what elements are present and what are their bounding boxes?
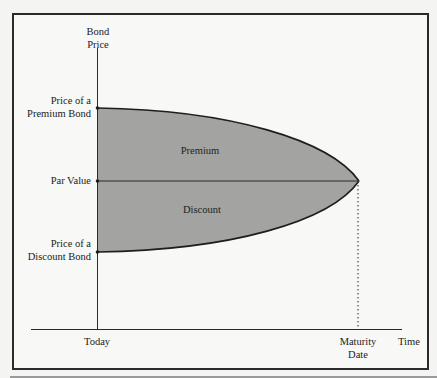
premium-region-label: Premium [165,144,235,157]
x-label-maturity-line2: Date [333,348,383,361]
premium-price-dot [96,106,100,110]
discount-price-dot [96,250,100,254]
premium-discount-region [98,108,359,252]
premium-price-label-line1: Price of a [10,94,91,107]
par-value-label: Par Value [10,174,91,187]
x-label-maturity-line1: Maturity [333,335,383,348]
y-axis-title-line1: Bond [80,25,116,38]
discount-region-label: Discount [167,203,237,216]
premium-price-label: Price of a Premium Bond [10,94,91,120]
y-axis-title-line2: Price [80,38,116,51]
par-value-dot [96,179,100,183]
x-label-today: Today [72,335,122,348]
y-axis-title: Bond Price [80,25,116,51]
discount-price-label: Price of a Discount Bond [10,237,91,263]
premium-price-label-line2: Premium Bond [10,107,91,120]
discount-price-label-line2: Discount Bond [10,250,91,263]
par-value-label-text: Par Value [10,174,91,187]
x-axis-title: Time [398,335,420,348]
bond-price-diagram [0,0,437,378]
x-label-maturity-date: Maturity Date [333,335,383,361]
discount-price-label-line1: Price of a [10,237,91,250]
